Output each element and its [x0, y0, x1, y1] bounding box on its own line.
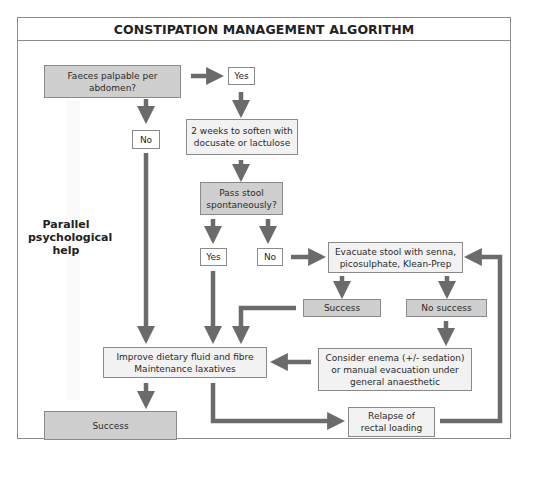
parallel-psychological-help-label: Parallel psychological help [28, 218, 104, 257]
outcome-success-evacuation: Success [303, 299, 381, 317]
outcome-no-success: No success [406, 299, 487, 317]
event-relapse: Relapse of rectal loading [348, 407, 435, 437]
action-consider-enema: Consider enema (+/- sedation) or manual … [318, 348, 472, 391]
action-soften-stool: 2 weeks to soften with docusate or lactu… [186, 119, 298, 155]
action-improve-diet: Improve dietary fluid and fibre Maintena… [103, 347, 267, 378]
answer-yes-faeces: Yes [228, 67, 255, 85]
answer-yes-pass-stool: Yes [200, 248, 227, 266]
decision-faeces-palpable: Faeces palpable per abdomen? [44, 65, 181, 98]
answer-no-faeces: No [132, 130, 160, 149]
diagram-title: CONSTIPATION MANAGEMENT ALGORITHM [17, 17, 511, 41]
outcome-success-final: Success [44, 411, 177, 440]
answer-no-pass-stool: No [257, 248, 283, 266]
action-evacuate-stool: Evacuate stool with senna, picosulphate,… [328, 242, 463, 273]
decision-pass-stool: Pass stool spontaneously? [200, 182, 283, 215]
